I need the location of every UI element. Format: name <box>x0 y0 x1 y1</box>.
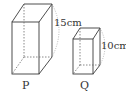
prism-q-right-face <box>93 28 100 74</box>
prism-p-hidden-left-bottom <box>12 57 24 74</box>
prism-p-right-face <box>39 4 52 74</box>
prism-p-top-face <box>12 4 52 22</box>
prism-p-height-arc <box>52 4 59 57</box>
prism-q-hidden-left-bottom <box>73 65 80 74</box>
prism-p-name: P <box>22 79 30 92</box>
prism-q-front-face <box>73 39 93 74</box>
prism-p: 15cm P <box>12 4 82 92</box>
prism-q: 10cm Q <box>73 28 126 92</box>
prism-diagram: 15cm P 10cm Q <box>0 0 126 95</box>
prism-q-height-label: 10cm <box>101 40 126 51</box>
prism-p-height-label: 15cm <box>54 17 82 28</box>
prism-q-name: Q <box>80 79 89 92</box>
prism-p-front-face <box>12 22 39 74</box>
prism-q-top-face <box>73 28 100 39</box>
